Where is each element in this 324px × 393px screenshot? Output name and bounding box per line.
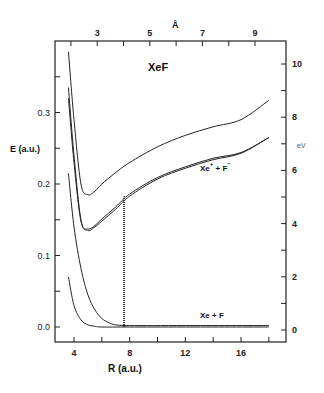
x-tick-label: 16 <box>236 348 246 358</box>
y2-tick-label: 0 <box>292 325 297 335</box>
x-tick-label: 8 <box>127 348 132 358</box>
y2-tick-label: 4 <box>292 219 297 229</box>
x2-tick-label: 9 <box>253 28 258 38</box>
x2-tick-label: 7 <box>200 28 205 38</box>
x-tick-label: 12 <box>180 348 190 358</box>
y2-axis-label: eV <box>297 142 306 149</box>
x-axis-label: R (a.u.) <box>108 363 142 374</box>
axes-box <box>55 41 286 342</box>
y2-tick-label: 6 <box>292 165 297 175</box>
y-tick-label: 0.2 <box>37 179 50 189</box>
x2-tick-label: 5 <box>147 28 152 38</box>
y-tick-label: 0.0 <box>37 322 50 332</box>
potential-curve <box>68 87 268 230</box>
y2-tick-label: 8 <box>292 112 297 122</box>
neutral-label: Xe + F <box>200 311 224 320</box>
y2-tick-label: 10 <box>292 59 302 69</box>
potential-curves <box>68 52 268 327</box>
potential-curve <box>68 277 268 327</box>
svg-text:Xe+ + F−: Xe+ + F− <box>200 161 231 173</box>
potential-curve <box>68 52 268 195</box>
y-tick-label: 0.1 <box>37 251 50 261</box>
x2-axis-label: Å <box>172 20 179 30</box>
y-tick-label: 0.3 <box>37 108 50 118</box>
potential-curve <box>68 98 268 229</box>
y2-tick-label: 2 <box>292 272 297 282</box>
potential-energy-chart: 4812160.00.10.20.335790246810 XeF Xe+ + … <box>0 0 324 393</box>
ionic-label: Xe+ + F− <box>200 161 231 173</box>
plot-frame <box>55 41 286 342</box>
x2-tick-label: 3 <box>95 28 100 38</box>
x-tick-label: 4 <box>71 348 76 358</box>
potential-curve <box>68 173 268 325</box>
y-axis-label: E (a.u.) <box>10 144 40 154</box>
chart-title: XeF <box>148 61 168 73</box>
